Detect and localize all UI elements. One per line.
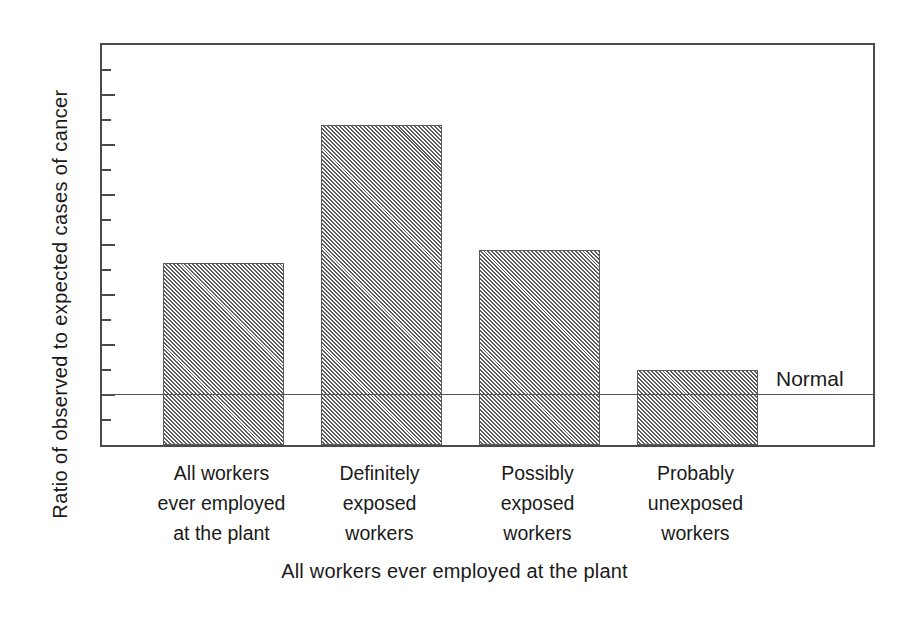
y-axis-minor-tick [102, 269, 111, 271]
y-axis-minor-tick [102, 369, 111, 371]
category-label-line: Possibly [455, 458, 620, 488]
category-label-line: exposed [297, 488, 462, 518]
category-label-line: workers [613, 518, 778, 548]
y-axis-minor-tick [102, 169, 111, 171]
bar [321, 125, 442, 445]
y-axis-minor-tick [102, 219, 111, 221]
y-axis-major-tick [102, 294, 115, 296]
bar [479, 250, 600, 445]
y-axis-minor-tick [102, 319, 111, 321]
bar [637, 370, 758, 445]
y-axis-minor-tick [102, 119, 111, 121]
y-axis-major-tick [102, 144, 115, 146]
x-axis-category-label: Probablyunexposedworkers [613, 458, 778, 548]
y-axis-minor-tick [102, 419, 111, 421]
y-axis-major-tick [102, 344, 115, 346]
category-label-line: Definitely [297, 458, 462, 488]
category-label-line: at the plant [139, 518, 304, 548]
bar-chart-figure: Ratio of observed to expected cases of c… [0, 0, 909, 618]
bar [163, 263, 284, 446]
plot-inner: 012345678Normal [102, 45, 873, 445]
category-label-line: workers [297, 518, 462, 548]
category-label-line: All workers [139, 458, 304, 488]
x-axis-title: All workers ever employed at the plant [0, 560, 909, 583]
y-axis-major-tick [102, 244, 115, 246]
normal-reference-label: Normal [776, 367, 844, 391]
category-label-line: unexposed [613, 488, 778, 518]
x-axis-category-labels: All workersever employedat the plantDefi… [100, 458, 875, 553]
y-axis-title: Ratio of observed to expected cases of c… [49, 54, 79, 554]
y-axis-major-tick [102, 194, 115, 196]
plot-area: 012345678Normal [100, 43, 875, 447]
category-label-line: ever employed [139, 488, 304, 518]
category-label-line: Probably [613, 458, 778, 488]
y-axis-major-tick [102, 94, 115, 96]
x-axis-category-label: Possiblyexposedworkers [455, 458, 620, 548]
category-label-line: workers [455, 518, 620, 548]
normal-reference-line [102, 394, 873, 395]
x-axis-category-label: All workersever employedat the plant [139, 458, 304, 548]
y-axis-minor-tick [102, 69, 111, 71]
category-label-line: exposed [455, 488, 620, 518]
x-axis-category-label: Definitelyexposedworkers [297, 458, 462, 548]
